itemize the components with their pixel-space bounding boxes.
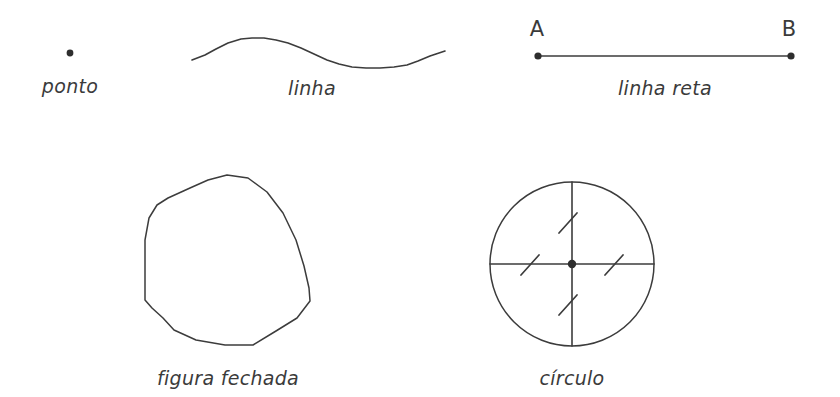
ponto-dot <box>67 50 74 57</box>
circulo-label: círculo <box>539 367 604 389</box>
radius-tick-down-icon <box>559 295 577 315</box>
figure-ponto: ponto <box>41 50 98 97</box>
linha-label: linha <box>288 77 336 99</box>
figure-linha-reta: A B linha reta <box>530 17 796 99</box>
linha-reta-label: linha reta <box>618 77 712 99</box>
figure-figura-fechada: figura fechada <box>145 175 310 389</box>
figure-linha: linha <box>192 38 445 99</box>
endpoint-a-label: A <box>530 17 545 41</box>
figura-fechada-polygon <box>145 175 310 345</box>
figure-circulo: círculo <box>490 182 654 389</box>
radius-tick-up-icon <box>559 213 577 233</box>
geometry-figures-canvas: ponto linha A B linha reta figura fechad… <box>0 0 840 397</box>
endpoint-b-label: B <box>782 17 796 41</box>
circulo-center-dot <box>568 260 576 268</box>
endpoint-b-dot <box>787 52 794 59</box>
radius-tick-right-icon <box>605 255 623 275</box>
radius-tick-left-icon <box>521 255 539 275</box>
ponto-label: ponto <box>41 75 98 97</box>
endpoint-a-dot <box>534 52 541 59</box>
linha-curve-path <box>192 38 445 68</box>
figura-fechada-label: figura fechada <box>157 367 299 389</box>
